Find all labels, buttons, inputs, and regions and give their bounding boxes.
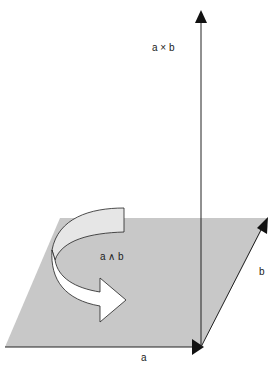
- diagram-canvas: a × b a ∧ b b a: [0, 0, 275, 367]
- cross-product-arrowhead: [195, 10, 207, 23]
- diagram-svg: [0, 0, 275, 367]
- cross-product-label: a × b: [152, 42, 175, 53]
- vector-a-label: a: [141, 352, 147, 363]
- wedge-plane: [5, 218, 268, 347]
- wedge-product-label: a ∧ b: [100, 251, 124, 262]
- vector-b-label: b: [259, 266, 265, 277]
